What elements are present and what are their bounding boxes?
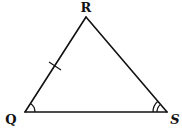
tick-mark-qr (49, 62, 61, 70)
triangle-diagram: R Q S (0, 0, 182, 136)
vertex-label-q: Q (5, 112, 16, 127)
side-qr (25, 17, 86, 112)
angle-arc-q (30, 104, 35, 112)
angle-arc-s-inner (157, 104, 161, 112)
vertex-label-s: S (170, 112, 179, 127)
side-rs (86, 17, 167, 112)
vertex-label-r: R (81, 0, 92, 15)
